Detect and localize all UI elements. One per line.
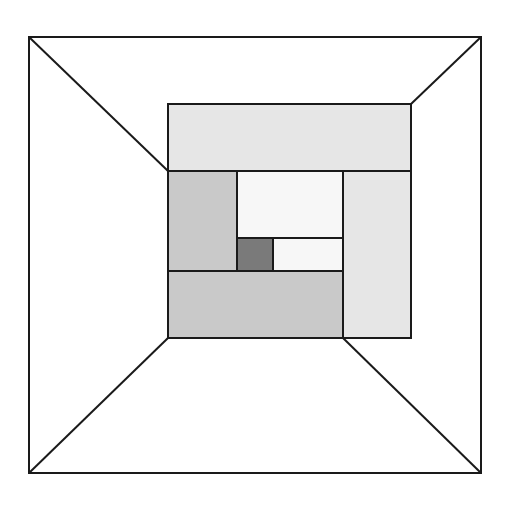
left-column-panel [168, 171, 237, 271]
diagram-canvas [0, 0, 512, 506]
dark-core-square [237, 238, 273, 271]
nested-squares-diagram [0, 0, 512, 506]
right-column-panel [343, 171, 411, 338]
inner-panels [168, 104, 411, 338]
bottom-band-panel [168, 271, 343, 338]
small-white-panel [273, 238, 343, 271]
top-band-panel [168, 104, 411, 171]
center-white-panel [237, 171, 343, 238]
